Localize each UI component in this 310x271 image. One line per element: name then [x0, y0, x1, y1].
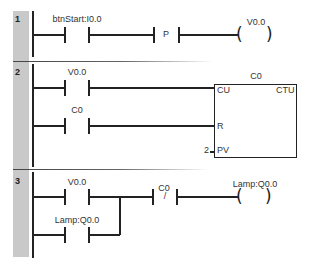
coil-left-paren-icon: (: [236, 188, 243, 205]
rung-separator: [13, 61, 213, 62]
contact-left-bar: [64, 227, 66, 243]
wire: [33, 234, 64, 236]
contact-label: btnStart:I0.0: [52, 14, 101, 24]
contact-left-bar: [64, 80, 66, 96]
rung-number: 1: [15, 14, 20, 24]
block-type: CTU: [276, 85, 295, 95]
rung-number: 2: [15, 67, 20, 77]
pin-r: R: [217, 121, 224, 131]
coil-left-paren-icon: (: [236, 26, 243, 43]
wire: [89, 34, 153, 36]
power-rail-rung-3: [32, 172, 34, 258]
contact-left-bar: [152, 189, 154, 205]
wire: [33, 87, 64, 89]
contact-label: V0.0: [68, 67, 87, 77]
coil-right-paren-icon: ): [266, 26, 273, 43]
wire: [89, 234, 120, 236]
coil-label: V0.0: [247, 17, 266, 27]
wire: [179, 34, 238, 36]
counter-name: C0: [250, 71, 262, 81]
power-rail-rung-2: [32, 64, 34, 167]
coil-right-paren-icon: ): [265, 188, 272, 205]
pv-wire: [210, 151, 214, 153]
branch-join-wire: [119, 196, 121, 235]
wire-to-cu: [89, 87, 214, 89]
wire: [33, 34, 64, 36]
wire: [33, 196, 64, 198]
wire: [89, 196, 152, 198]
rung-separator: [13, 169, 208, 170]
pin-cu: CU: [217, 85, 230, 95]
contact-left-bar: [64, 27, 66, 43]
rung-number: 3: [15, 176, 20, 186]
pv-value[interactable]: 2: [204, 145, 209, 155]
wire: [33, 125, 64, 127]
p-symbol: P: [163, 29, 169, 39]
contact-left-bar: [64, 189, 66, 205]
contact-left-bar: [64, 118, 66, 134]
contact-label: Lamp:Q0.0: [55, 215, 100, 225]
pin-pv: PV: [217, 145, 229, 155]
nc-slash-symbol: /: [164, 191, 167, 201]
rung-number-gutter: [13, 11, 29, 257]
contact-label: C0: [71, 105, 83, 115]
contact-label: V0.0: [68, 177, 87, 187]
contact-left-bar: [153, 27, 155, 43]
wire: [177, 196, 238, 198]
wire-to-r: [89, 125, 214, 127]
